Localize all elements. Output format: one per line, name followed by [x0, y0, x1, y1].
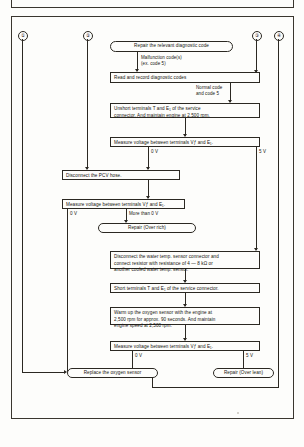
node-read-record-codes[interactable]: Read and record diagnostic codes [110, 72, 260, 83]
connector-3-marker: ③ [252, 31, 262, 41]
node-repair-over-lean[interactable]: Repair (Over lean) [213, 368, 274, 378]
flowchart-page: ① ② ③ ④ Repair the relevant diagnostic c… [0, 0, 304, 447]
connector-1-marker: ① [18, 31, 28, 41]
rail-connector-1-turn [22, 372, 65, 373]
rail-connector-1 [22, 39, 23, 372]
node-unshort-terminals[interactable]: Unshort terminals T and E₁ of the servic… [110, 103, 260, 118]
edge-measure1-5v [256, 147, 257, 250]
rail-connector-4 [278, 39, 279, 387]
node-measure-voltage-3[interactable]: Measure voltage between terminals Vƒ and… [110, 341, 260, 351]
node-measure-voltage-1[interactable]: Measure voltage between terminals Vƒ and… [110, 137, 260, 147]
node-disconnect-pcv-hose[interactable]: Disconnect the PCV hose. [62, 170, 180, 180]
rail-connector-3 [256, 39, 257, 72]
node-warm-up-oxygen-sensor[interactable]: Warm up the oxygen sensor with the engin… [110, 307, 260, 325]
node-replace-oxygen-sensor[interactable]: Replace the oxygen sensor [67, 368, 158, 378]
connector-2-marker: ② [83, 31, 93, 41]
edge-label-measure3-5v: 5 V [246, 353, 253, 359]
edge-label-measure3-0v: 0 V [135, 353, 142, 359]
edge-label-measure2-0v: 0 V [70, 211, 77, 217]
page-speck [237, 412, 239, 414]
connector-4-marker: ④ [274, 31, 284, 41]
rail-connector-2 [87, 39, 88, 169]
rail-connector-4-turn [152, 387, 279, 388]
edge-measure1-0v [148, 147, 149, 169]
node-repair-over-rich[interactable]: Repair (Over rich) [98, 223, 196, 233]
edge-measure2-0v [67, 209, 68, 372]
node-short-terminals[interactable]: Short terminals T and E₁ of the service … [110, 283, 260, 293]
node-repair-relevant-code[interactable]: Repair the relevant diagnostic code [110, 41, 233, 52]
node-disconnect-water-temp-sensor[interactable]: Disconnect the water temp. sensor connec… [110, 251, 260, 269]
page-top-panel [11, 0, 294, 8]
node-measure-voltage-2[interactable]: Measure voltage between terminals Vƒ and… [62, 199, 185, 209]
edge-label-malfunction-code: Malfunction code(s) (ex. code 5) [141, 55, 182, 67]
edge-label-measure1-0v: 0 V [151, 149, 158, 155]
edge-label-measure2-more: More than 0 V [129, 211, 158, 217]
edge-label-normal-code: Normal code and code 5 [196, 85, 222, 97]
edge-label-measure1-5v: 5 V [259, 149, 266, 155]
